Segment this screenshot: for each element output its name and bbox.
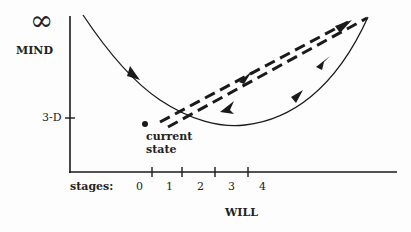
infinity-symbol: ∞ [30,7,53,35]
stage-3: 3 [228,181,235,192]
y-axis-label: MIND [16,45,53,56]
arrow-icon [220,101,234,114]
stages-label: stages: [70,181,113,192]
x-axis-label: WILL [225,207,258,218]
current-state-dot [142,121,148,127]
arrow-icon [316,56,330,70]
stage-0: 0 [136,181,143,192]
dashed-outbound [160,22,348,122]
dashed-return [168,18,367,127]
arrow-icon [127,66,140,80]
stage-4: 4 [259,181,266,192]
will-mind-diagram: ∞ MIND 3-D current state stages: 0 1 2 3… [0,0,411,232]
stage-1: 1 [166,181,173,192]
stage-2: 2 [197,181,204,192]
y-tick-label: 3-D [42,112,62,123]
current-state-label: current state [146,130,192,156]
arrow-icon [291,90,303,103]
